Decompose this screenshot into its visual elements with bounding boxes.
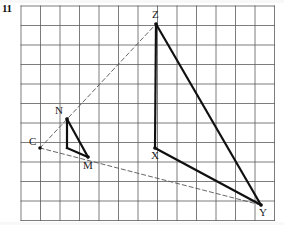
figure-page: 11 CNMZXY (0, 0, 284, 225)
dashed-rays-layer (40, 24, 261, 205)
edge-N-M (67, 119, 88, 157)
vertex-label-z: Z (152, 9, 159, 20)
vertex-label-m: M (83, 160, 93, 171)
geometry-figure (0, 0, 284, 225)
vertex-label-y: Y (259, 207, 267, 218)
vertex-label-x: X (151, 150, 159, 161)
vertex-dot-c (38, 146, 42, 150)
vertex-dot-z (154, 22, 158, 26)
vertex-label-c: C (29, 136, 36, 147)
edge-Z-X (155, 24, 156, 148)
vertex-label-n: N (55, 105, 63, 116)
ray-C-Z (40, 24, 156, 148)
solid-edges-layer (67, 24, 261, 205)
vertex-dot-n (65, 117, 69, 121)
